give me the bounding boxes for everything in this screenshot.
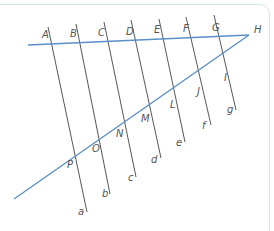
point-label-B: B xyxy=(70,28,77,39)
point-label-O: O xyxy=(92,143,100,154)
point-label-P: P xyxy=(67,159,74,170)
upper-blue-line xyxy=(28,35,249,45)
point-label-L: L xyxy=(170,99,176,110)
line-label-e: e xyxy=(176,137,182,148)
line-label-f: f xyxy=(202,120,207,131)
point-label-J: J xyxy=(195,86,200,97)
point-label-F: F xyxy=(183,23,189,34)
line-label-a: a xyxy=(78,206,84,217)
line-label-c: c xyxy=(128,172,134,183)
line-label-b: b xyxy=(102,188,108,199)
transversal-diagram: ABCDEFGHIJLMNOPabcdefg xyxy=(0,0,274,231)
point-label-A: A xyxy=(41,29,49,40)
point-label-I: I xyxy=(224,72,227,83)
point-label-G: G xyxy=(212,22,220,33)
line-label-d: d xyxy=(151,154,158,165)
line-label-g: g xyxy=(227,104,233,115)
point-label-M: M xyxy=(141,113,150,124)
point-label-N: N xyxy=(116,128,124,139)
transversal-line-b xyxy=(76,24,110,194)
point-label-H: H xyxy=(254,24,262,35)
transversal-line-a xyxy=(48,27,87,212)
transversal-line-c xyxy=(104,22,136,177)
point-label-D: D xyxy=(126,26,134,37)
point-label-E: E xyxy=(154,24,161,35)
point-label-C: C xyxy=(98,27,105,38)
